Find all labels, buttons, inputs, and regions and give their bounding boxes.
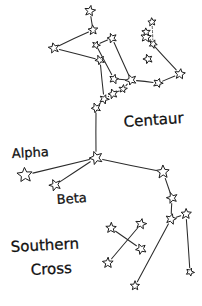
constellation-line <box>117 91 119 92</box>
constellation-line <box>163 76 175 81</box>
constellation-line <box>59 32 88 46</box>
constellation-line <box>126 84 127 86</box>
label-centaur: Centaur <box>123 109 185 131</box>
star-icon <box>154 78 164 87</box>
star-icon <box>166 214 176 224</box>
star-icon <box>91 103 100 113</box>
star-icon <box>49 180 60 191</box>
star-icon <box>88 25 98 35</box>
labels-layer: CentaurAlphaBetaSouthernCross <box>10 109 185 279</box>
star-icon <box>181 208 191 218</box>
star-icon <box>166 192 177 203</box>
star-icon <box>125 75 136 85</box>
constellation-line <box>137 81 154 83</box>
star-icon <box>136 219 147 229</box>
star-icon <box>142 28 150 36</box>
star-chart-canvas: CentaurAlphaBetaSouthernCross <box>0 0 202 306</box>
star-icon <box>100 95 109 104</box>
star-icon <box>156 165 169 178</box>
star-icon <box>110 74 119 83</box>
star-icon <box>143 54 152 63</box>
star-icon <box>186 268 194 276</box>
constellation-line <box>101 65 104 94</box>
constellation-line <box>91 17 92 26</box>
constellation-line <box>165 178 170 192</box>
constellation-diagram: CentaurAlphaBetaSouthernCross <box>0 0 202 306</box>
constellation-line <box>137 224 168 282</box>
star-icon <box>48 43 59 53</box>
star-icon <box>95 55 104 65</box>
star-icon <box>149 40 157 48</box>
constellation-line <box>186 220 189 268</box>
constellation-line <box>100 40 107 43</box>
constellation-line <box>114 43 129 75</box>
constellation-line <box>99 103 100 105</box>
constellation-line <box>60 162 90 182</box>
star-icon <box>92 41 100 49</box>
constellation-line <box>176 216 180 217</box>
constellation-line <box>33 160 90 174</box>
constellation-line <box>152 26 153 39</box>
constellation-line <box>59 49 95 58</box>
star-icon <box>107 33 116 43</box>
star-icon <box>136 244 146 254</box>
star-icon <box>108 89 117 99</box>
label-cross: Cross <box>30 259 72 279</box>
star-icon <box>17 167 32 181</box>
star-icon <box>106 222 116 232</box>
star-icon <box>89 151 102 164</box>
star-icon <box>85 5 96 15</box>
star-icon <box>130 281 139 290</box>
label-southern: Southern <box>10 234 79 256</box>
label-alpha: Alpha <box>11 144 49 161</box>
star-icon <box>148 18 156 26</box>
constellation-line <box>103 159 157 170</box>
label-beta: Beta <box>56 190 87 207</box>
